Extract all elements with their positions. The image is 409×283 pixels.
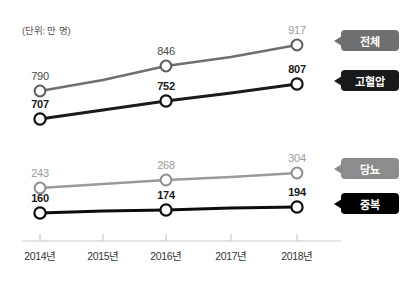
- data-label-jeonche-2016: 846: [157, 45, 174, 57]
- legend-badge-jungbok[interactable]: 중복: [341, 193, 399, 214]
- legend-label-jeonche: 전체: [360, 33, 379, 49]
- legend-tail-icon: [334, 164, 342, 174]
- data-label-jungbok-2018: 194: [288, 186, 305, 198]
- data-label-dangnyo-2014: 243: [31, 167, 48, 179]
- data-label-jeonche-2014: 790: [31, 70, 48, 82]
- data-point-jungbok-2014: [34, 207, 45, 218]
- chart-container: (단위: 만 명) 790 846: [0, 0, 409, 283]
- data-label-dangnyo-2018: 304: [288, 152, 305, 164]
- data-point-jungbok-2016: [160, 204, 171, 215]
- legend-badge-dangnyo[interactable]: 당뇨: [341, 158, 399, 179]
- data-label-jeonche-2018: 917: [288, 24, 305, 36]
- legend-label-dangnyo: 당뇨: [360, 161, 379, 177]
- legend-badge-gohyeorab[interactable]: 고혈압: [341, 70, 399, 91]
- data-point-gohyeorab-2018: [291, 78, 302, 89]
- data-label-gohyeorab-2018: 807: [288, 63, 305, 75]
- data-label-jungbok-2016: 174: [157, 189, 174, 201]
- data-point-jeonche-2014: [35, 86, 46, 97]
- legend-tail-icon: [334, 76, 342, 86]
- x-axis-label-2017: 2017년: [215, 248, 246, 263]
- data-label-gohyeorab-2016: 752: [157, 80, 174, 92]
- data-point-gohyeorab-2014: [34, 113, 45, 124]
- data-point-dangnyo-2018: [292, 168, 303, 179]
- data-point-gohyeorab-2016: [160, 95, 171, 106]
- x-axis-label-2018: 2018년: [281, 248, 312, 263]
- legend-label-jungbok: 중복: [360, 196, 379, 212]
- data-point-jungbok-2018: [291, 201, 302, 212]
- data-point-jeonche-2018: [292, 40, 303, 51]
- data-label-jungbok-2014: 160: [31, 192, 48, 204]
- x-axis-label-2015: 2015년: [87, 248, 118, 263]
- legend-badge-jeonche[interactable]: 전체: [341, 30, 399, 51]
- legend-tail-icon: [334, 199, 342, 209]
- legend-label-gohyeorab: 고혈압: [355, 73, 384, 89]
- x-axis-label-2016: 2016년: [150, 248, 181, 263]
- data-point-dangnyo-2016: [161, 175, 172, 186]
- x-axis-label-2014: 2014년: [24, 248, 55, 263]
- legend-tail-icon: [334, 36, 342, 46]
- data-label-gohyeorab-2014: 707: [31, 98, 48, 110]
- data-label-dangnyo-2016: 268: [157, 159, 174, 171]
- data-point-jeonche-2016: [161, 61, 172, 72]
